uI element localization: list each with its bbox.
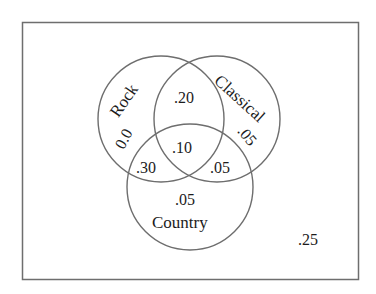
classical-country-value: .05 xyxy=(210,160,230,176)
rock-country-value: .30 xyxy=(136,160,156,176)
country-only-value: .05 xyxy=(175,192,195,208)
country-label: Country xyxy=(152,214,208,231)
rock-classical-value: .20 xyxy=(174,90,194,106)
rock-circle xyxy=(98,56,224,182)
venn-diagram: Rock 0.0 Classical .05 .20 .10 .30 .05 .… xyxy=(0,0,376,294)
all-three-value: .10 xyxy=(172,140,192,156)
outside-value: .25 xyxy=(298,232,318,248)
